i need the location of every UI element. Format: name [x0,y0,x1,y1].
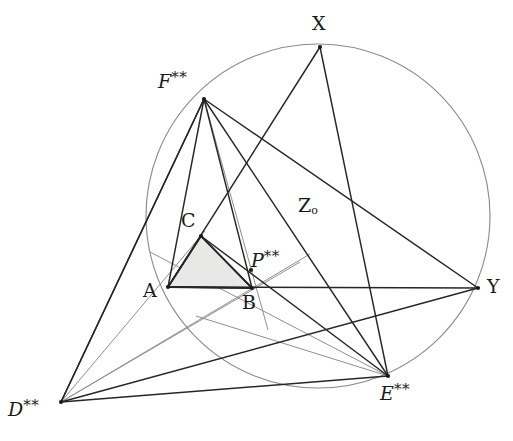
vertex-dot-x [318,45,322,49]
point-label-b: B [242,293,256,312]
light-construction-lines [61,99,388,402]
vertex-dot-y [476,286,480,290]
vertex-dot-a [166,285,170,289]
light-E-Bext [196,316,388,376]
vertex-dot-f [202,97,206,101]
point-label-f: F** [158,70,187,91]
point-label-e: E** [380,382,410,403]
point-label-x: X [312,14,326,33]
vertex-dot-e [386,374,390,378]
segment-X-E [320,47,388,376]
segment-E-C [201,236,388,376]
circumscribed-circle [146,44,490,388]
point-label-a: A [143,281,157,300]
segment-F-E [204,99,388,376]
dark-construction-lines [61,47,478,402]
vertex-dots [59,45,480,404]
vertex-dot-b [250,286,254,290]
point-label-p: P** [251,249,280,270]
vertex-dot-c [199,234,203,238]
point-label-z: Zo [298,196,318,216]
geometry-canvas [0,0,513,441]
segment-D-F2 [61,99,204,402]
shaded-triangle-abc [168,236,252,288]
point-label-c: C [181,211,196,230]
geometry-figure: XF**ZoCP**ABYE**D** [0,0,513,441]
vertex-dot-d [59,400,63,404]
point-label-d: D** [8,398,39,419]
light-D-Aext [61,231,205,402]
triangle-side-AB [168,287,252,288]
point-label-y: Y [487,277,500,296]
